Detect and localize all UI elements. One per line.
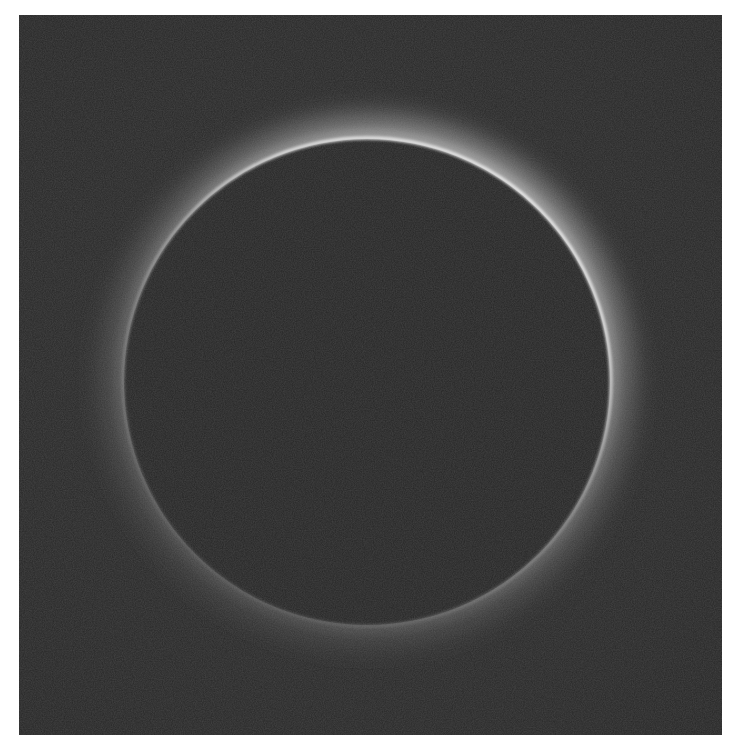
eclipse-photo: Total solar eclipse corona ring <box>19 15 722 735</box>
eclipse-illustration <box>19 15 722 735</box>
image-frame: Total solar eclipse corona ring <box>0 0 740 749</box>
film-grain <box>19 15 722 735</box>
